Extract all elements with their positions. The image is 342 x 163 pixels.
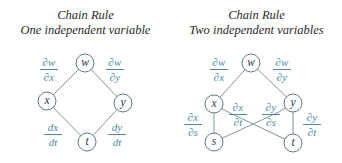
node-x: x: [38, 92, 56, 110]
denominator: ∂t: [306, 126, 319, 138]
node-t: t: [78, 133, 96, 151]
fraction-bar: [262, 114, 280, 115]
svg-text:y: y: [119, 96, 126, 109]
node-w: w: [76, 54, 94, 72]
node-w: w: [242, 54, 260, 72]
svg-text:x: x: [43, 94, 50, 106]
numerator: dy: [110, 121, 124, 133]
fraction-bar: [40, 69, 58, 70]
denominator: ∂s: [186, 126, 200, 138]
derivative-dw-dx: ∂w ∂x: [40, 56, 58, 83]
denominator: ∂t: [232, 116, 245, 128]
denominator: ∂y: [108, 71, 122, 83]
numerator: dx: [46, 121, 60, 133]
denominator: dt: [47, 136, 60, 148]
derivative-dx-dt: dx dt: [44, 121, 62, 148]
numerator: ∂x: [231, 101, 245, 113]
derivative-dw-dy: ∂w ∂y: [106, 56, 124, 83]
derivative-dx-dt: ∂x ∂t: [229, 101, 247, 128]
node-x: x: [205, 95, 223, 113]
node-s: s: [205, 133, 223, 151]
svg-text:s: s: [212, 135, 217, 147]
derivative-dx-ds: ∂x ∂s: [184, 111, 202, 138]
svg-text:w: w: [81, 56, 89, 68]
node-y: y: [114, 94, 132, 112]
fraction-bar: [108, 134, 126, 135]
derivative-dy-dt: dy dt: [108, 121, 126, 148]
numerator: ∂w: [107, 56, 124, 68]
fraction-bar: [229, 114, 247, 115]
denominator: dt: [111, 136, 124, 148]
numerator: ∂w: [274, 56, 291, 68]
svg-text:y: y: [289, 96, 296, 109]
denominator: ∂x: [42, 71, 56, 83]
node-y: y: [284, 94, 302, 112]
fraction-bar: [184, 124, 202, 125]
derivative-dy-dt: ∂y ∂t: [303, 111, 321, 138]
derivative-dy-ds: ∂y ∂s: [262, 101, 280, 128]
fraction-bar: [106, 69, 124, 70]
numerator: ∂x: [186, 111, 200, 123]
fraction-bar: [303, 124, 321, 125]
svg-text:x: x: [210, 97, 217, 109]
numerator: ∂w: [41, 56, 58, 68]
fraction-bar: [44, 134, 62, 135]
numerator: ∂w: [211, 56, 228, 68]
svg-text:w: w: [247, 56, 255, 68]
denominator: ∂y: [275, 71, 289, 83]
numerator: ∂y: [264, 101, 278, 113]
denominator: ∂s: [264, 116, 278, 128]
fraction-bar: [273, 69, 291, 70]
edge-y-s: [214, 103, 293, 142]
numerator: ∂y: [305, 111, 319, 123]
derivative-dw-dy: ∂w ∂y: [273, 56, 291, 83]
fraction-bar: [210, 69, 228, 70]
denominator: ∂x: [212, 71, 226, 83]
node-t: t: [284, 134, 302, 152]
derivative-dw-dx: ∂w ∂x: [210, 56, 228, 83]
